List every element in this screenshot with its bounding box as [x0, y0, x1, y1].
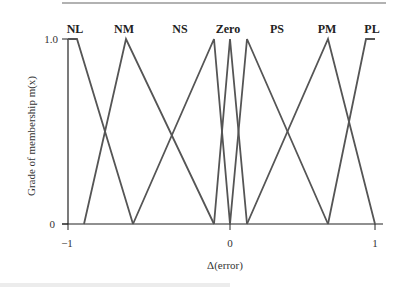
x-tick-label-0: 0: [227, 237, 233, 249]
y-axis-title: Grade of membership m(x): [25, 76, 38, 196]
label-PM: PM: [318, 22, 337, 36]
x-tick-label-neg1: −1: [61, 237, 73, 249]
series-NS: [133, 39, 230, 224]
series-NL: [68, 39, 133, 224]
series-PM: [247, 39, 375, 224]
label-Zero: Zero: [216, 22, 240, 36]
label-NS: NS: [172, 22, 188, 36]
series-Zero: [214, 39, 247, 224]
bottom-strip: [0, 283, 230, 287]
x-tick-label-1: 1: [372, 237, 378, 249]
label-NL: NL: [67, 22, 84, 36]
series-NM: [84, 39, 214, 224]
y-tick-label-0: 0: [50, 218, 56, 230]
membership-function-chart: NL NM NS Zero PS PM PL 1.0 0 −1 0 1 Δ(er…: [0, 0, 401, 287]
y-tick-label-1: 1.0: [44, 33, 58, 45]
label-NM: NM: [114, 22, 134, 36]
x-axis-title: Δ(error): [207, 259, 243, 272]
label-PS: PS: [270, 22, 284, 36]
label-PL: PL: [364, 22, 379, 36]
